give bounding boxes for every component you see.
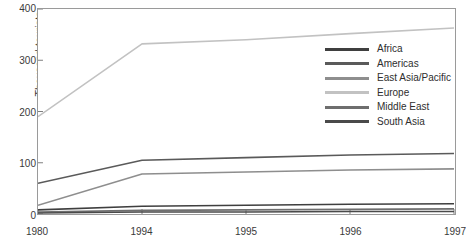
x-tick-label: 1996	[339, 226, 361, 237]
legend-color-swatch	[325, 77, 369, 80]
legend-item[interactable]: Europe	[325, 86, 455, 101]
y-tick-label: 400	[6, 3, 36, 14]
legend-label: East Asia/Pacific	[377, 73, 451, 83]
legend-color-swatch	[325, 106, 369, 109]
y-tick-label: 300	[6, 54, 36, 65]
y-axis-tick-labels: 0100200300400	[6, 0, 36, 252]
x-tick-label: 1995	[235, 226, 257, 237]
legend-item[interactable]: East Asia/Pacific	[325, 71, 455, 86]
legend-label: Europe	[377, 88, 409, 98]
legend-item[interactable]: Middle East	[325, 100, 455, 115]
series-line	[38, 169, 454, 205]
legend-color-swatch	[325, 120, 369, 123]
legend-item[interactable]: Africa	[325, 42, 455, 57]
legend-color-swatch	[325, 91, 369, 94]
y-tick-label: 200	[6, 106, 36, 117]
chart-legend: AfricaAmericasEast Asia/PacificEuropeMid…	[325, 42, 455, 129]
x-axis-tick-labels: 19801994199519961997	[0, 226, 463, 246]
legend-label: South Asia	[377, 117, 425, 127]
x-tick-label: 1980	[26, 226, 48, 237]
x-tick-label: 1994	[130, 226, 152, 237]
legend-item[interactable]: South Asia	[325, 115, 455, 130]
legend-label: Americas	[377, 59, 419, 69]
y-tick-label: 0	[6, 210, 36, 221]
y-tick-label: 100	[6, 158, 36, 169]
series-line	[38, 154, 454, 184]
legend-label: Middle East	[377, 102, 429, 112]
legend-color-swatch	[325, 62, 369, 65]
x-tick-label: 1997	[444, 226, 466, 237]
legend-item[interactable]: Americas	[325, 57, 455, 72]
legend-color-swatch	[325, 48, 369, 51]
legend-label: Africa	[377, 44, 403, 54]
